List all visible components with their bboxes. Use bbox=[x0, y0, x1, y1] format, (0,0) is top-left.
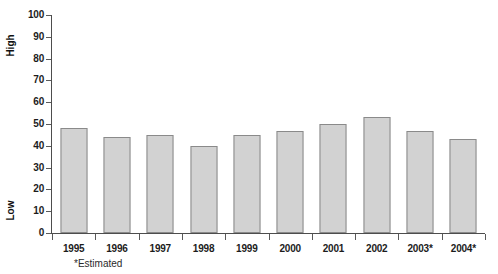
bar-1996 bbox=[103, 137, 130, 233]
x-tick-mark bbox=[52, 234, 53, 240]
bar-slot bbox=[355, 15, 398, 233]
y-tick-label: 40 bbox=[18, 141, 44, 151]
bar-1997 bbox=[147, 135, 174, 233]
x-tick-mark bbox=[398, 234, 399, 240]
x-tick-label: 1995 bbox=[52, 243, 95, 254]
bar-slot bbox=[398, 15, 441, 233]
x-tick-label: 2000 bbox=[269, 243, 312, 254]
x-tick-mark bbox=[225, 234, 226, 240]
plot-area bbox=[52, 15, 485, 233]
y-axis-caption-high: High bbox=[5, 26, 16, 66]
x-tick-mark bbox=[182, 234, 183, 240]
bar-1995 bbox=[60, 128, 87, 233]
bar-2001 bbox=[320, 124, 347, 233]
bar-slot bbox=[52, 15, 95, 233]
y-tick-label: 10 bbox=[18, 206, 44, 216]
x-tick-label: 1996 bbox=[95, 243, 138, 254]
x-tick-mark bbox=[269, 234, 270, 240]
y-axis-caption-low: Low bbox=[5, 191, 16, 231]
x-tick-label: 1997 bbox=[139, 243, 182, 254]
y-tick-label: 90 bbox=[18, 32, 44, 42]
y-tick-label: 30 bbox=[18, 163, 44, 173]
bar-slot bbox=[225, 15, 268, 233]
bar-slot bbox=[182, 15, 225, 233]
x-tick-mark bbox=[139, 234, 140, 240]
bar-slot bbox=[442, 15, 485, 233]
y-tick-label: 50 bbox=[18, 119, 44, 129]
x-tick-label: 1998 bbox=[182, 243, 225, 254]
x-tick-label: 1999 bbox=[225, 243, 268, 254]
y-tick-label: 20 bbox=[18, 184, 44, 194]
y-axis-labels: 0102030405060708090100 bbox=[16, 0, 44, 274]
bar-1998 bbox=[190, 146, 217, 233]
y-tick-label: 60 bbox=[18, 97, 44, 107]
bar-2003-est bbox=[407, 131, 434, 233]
x-tick-mark bbox=[355, 234, 356, 240]
bar-slot bbox=[269, 15, 312, 233]
x-tick-mark bbox=[485, 234, 486, 240]
bar-slot bbox=[95, 15, 138, 233]
footnote: *Estimated bbox=[74, 258, 122, 269]
bar-2004-est bbox=[450, 139, 477, 233]
x-axis-line bbox=[51, 233, 485, 234]
y-tick-label: 0 bbox=[18, 228, 44, 238]
x-tick-label: 2003* bbox=[398, 243, 441, 254]
x-tick-label: 2001 bbox=[312, 243, 355, 254]
bar-slot bbox=[312, 15, 355, 233]
y-tick-label: 70 bbox=[18, 75, 44, 85]
bar-chart: High Low 0102030405060708090100 19951996… bbox=[0, 0, 498, 274]
bar-2002 bbox=[363, 117, 390, 233]
y-tick-label: 100 bbox=[18, 10, 44, 20]
bar-1999 bbox=[233, 135, 260, 233]
x-tick-mark bbox=[95, 234, 96, 240]
y-tick-label: 80 bbox=[18, 54, 44, 64]
x-tick-mark bbox=[312, 234, 313, 240]
x-tick-label: 2004* bbox=[442, 243, 485, 254]
x-tick-label: 2002 bbox=[355, 243, 398, 254]
x-tick-mark bbox=[442, 234, 443, 240]
bar-slot bbox=[139, 15, 182, 233]
bar-2000 bbox=[277, 131, 304, 233]
